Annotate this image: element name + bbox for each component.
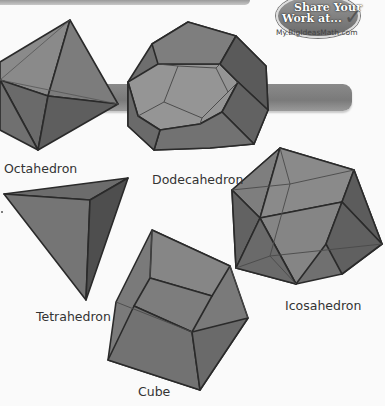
dodecahedron-label: Dodecahedron [152,172,243,187]
cube-label: Cube [138,384,170,399]
tetrahedron-label: Tetrahedron [36,309,111,324]
dodecahedron-figure [120,20,280,150]
share-your-work-banner[interactable]: Share Your Work at... ✓ My.BigIdeasMath.… [268,0,376,42]
pencil-check-icon: ✓ [344,4,362,29]
octahedron-figure [0,0,130,160]
cube-figure [100,230,260,390]
banner-url[interactable]: My.BigIdeasMath.com [276,28,357,37]
banner-line2: Work at... [282,12,342,25]
icosahedron-label: Icosahedron [285,298,361,313]
bullet-mark [1,211,3,213]
octahedron-label: Octahedron [4,161,77,176]
